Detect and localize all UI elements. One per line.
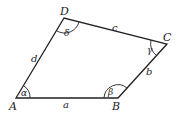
side-label-a: a	[63, 99, 69, 110]
quadrilateral-outline	[16, 18, 167, 98]
vertex-label-b: B	[111, 100, 120, 113]
side-label-b: b	[146, 66, 152, 77]
angle-label-beta: β	[107, 87, 113, 97]
quadrilateral-diagram: A B C D a b c d α β γ δ	[0, 0, 181, 114]
vertex-label-c: C	[163, 31, 172, 44]
angle-label-delta: δ	[64, 28, 69, 38]
side-label-d: d	[31, 53, 37, 64]
angle-label-alpha: α	[21, 88, 27, 98]
angle-label-gamma: γ	[147, 45, 153, 55]
vertex-label-d: D	[59, 5, 69, 18]
side-label-c: c	[112, 22, 118, 33]
vertex-label-a: A	[8, 100, 17, 113]
